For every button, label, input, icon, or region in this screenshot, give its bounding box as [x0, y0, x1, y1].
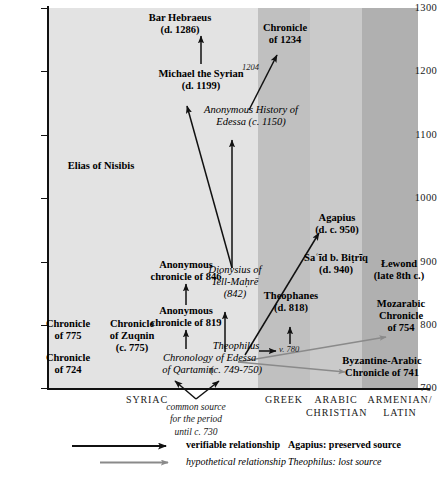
node-elias-line1: Elias of Nisibis [68, 160, 135, 171]
node-agapius-line1: Agapius [319, 212, 356, 223]
column-caption-syriac: SYRIAC [92, 394, 202, 407]
common-source-line3: until c. 730 [174, 427, 217, 437]
node-michael-the-syrian: Michael the Syrian (d. 1199) [118, 68, 284, 92]
edge-dionysius-to-michael [187, 106, 232, 268]
column-caption-arabic-line2: CHRISTIAN [306, 407, 366, 420]
node-theophanes-line2: (d. 818) [253, 302, 329, 314]
node-724-line1: Chronicle [46, 352, 90, 363]
node-chronicle-of-zuqnin: Chronicle of Zuqnin (c. 775) [90, 318, 174, 353]
edge-label-1204: 1204 [242, 62, 259, 72]
legend-label-hypothetical: hypothetical relationship [186, 454, 286, 470]
column-caption-arabic: ARABIC CHRISTIAN [306, 394, 366, 419]
legend-label-verifiable: verifiable relationship [186, 437, 280, 453]
legend-arrow-hypothetical-icon [100, 456, 182, 469]
node-mozarabic-chronicle-754: Mozarabic Chronicle of 754 [366, 298, 436, 333]
node-775-line1: Chronicle [46, 318, 90, 329]
node-dionysius-line1: Dionysius of [209, 264, 262, 275]
node-mozarabic-line3: of 754 [366, 322, 436, 334]
node-bar-hebraeus: Bar Hebraeus (d. 1286) [122, 12, 238, 36]
node-bar-hebraeus-line1: Bar Hebraeus [149, 12, 212, 23]
node-741-line2: Chronicle of 741 [329, 367, 435, 379]
common-source-line2: for the period [170, 414, 222, 424]
node-bar-hebraeus-line2: (d. 1286) [122, 24, 238, 36]
column-caption-arabic-line1: ARABIC [314, 394, 357, 405]
node-lewond-line2: (late 8th c.) [362, 270, 436, 282]
common-source-note: common source for the period until c. 73… [133, 401, 259, 438]
edge-label-780: v. 780 [279, 344, 299, 354]
node-edessa-line2: Edessa (c. 1150) [183, 116, 319, 128]
legend-label-preserved-source: Agapius: preserved source [288, 437, 401, 453]
node-mozarabic-line2: Chronicle [366, 310, 436, 322]
node-theophilus-of-edessa: Theophilus of Edessa (c. 749-750) [196, 340, 276, 375]
node-chronicle-1234-line2: of 1234 [240, 34, 330, 46]
node-zuqnin-line2: of Zuqnin [90, 330, 174, 342]
node-chronicle-724: Chronicle of 724 [32, 352, 104, 376]
column-caption-armenian-line2: LATIN [364, 407, 436, 420]
node-theophilus-line1: Theophilus [213, 340, 260, 351]
node-theophilus-line3: (c. 749-750) [196, 364, 276, 376]
column-caption-armenian: ARMENIAN/ LATIN [364, 394, 436, 419]
legend-arrow-verifiable-icon [72, 439, 182, 453]
node-819-line1: Anonymous [159, 305, 213, 316]
node-lewond: Łewond (late 8th c.) [362, 258, 436, 282]
node-edessa-line1: Anonymous History of [204, 104, 298, 115]
node-elias-of-nisibis: Elias of Nisibis [44, 160, 158, 172]
node-chronicle-1234-line1: Chronicle [263, 22, 307, 33]
node-agapius: Agapius (d. c. 950) [294, 212, 380, 236]
column-caption-armenian-line1: ARMENIAN/ [368, 394, 433, 405]
node-chronicle-1234: Chronicle of 1234 [240, 22, 330, 46]
node-zuqnin-line1: Chronicle [110, 318, 154, 329]
column-caption-greek: GREEK [258, 394, 310, 407]
node-lewond-line1: Łewond [381, 258, 417, 269]
node-741-line1: Byzantine-Arabic [342, 355, 421, 366]
legend-label-lost-source: Theophilus: lost source [288, 454, 382, 470]
node-michael-line1: Michael the Syrian [158, 68, 243, 79]
node-byzantine-arabic-chronicle-741: Byzantine-Arabic Chronicle of 741 [329, 355, 435, 379]
column-caption-greek-line1: GREEK [265, 394, 303, 405]
legend: verifiable relationship hypothetical rel… [0, 437, 437, 478]
node-agapius-line2: (d. c. 950) [294, 224, 380, 236]
node-724-line2: of 724 [32, 364, 104, 376]
node-said-line1: Saʿīd b. Biṭrīq [304, 252, 368, 263]
node-anonymous-history-of-edessa: Anonymous History of Edessa (c. 1150) [183, 104, 319, 128]
node-theophanes: Theophanes (d. 818) [253, 290, 329, 314]
node-theophanes-line1: Theophanes [264, 290, 318, 301]
column-caption-syriac-line1: SYRIAC [126, 394, 168, 405]
node-theophilus-line2: of Edessa [196, 352, 276, 364]
diagram-canvas: 1300 1200 1100 1000 900 800 700 [0, 0, 437, 478]
node-michael-line2: (d. 1199) [118, 80, 284, 92]
node-mozarabic-line1: Mozarabic [377, 298, 425, 309]
node-dionysius-line2: Tell-Maḥrē [194, 276, 276, 288]
